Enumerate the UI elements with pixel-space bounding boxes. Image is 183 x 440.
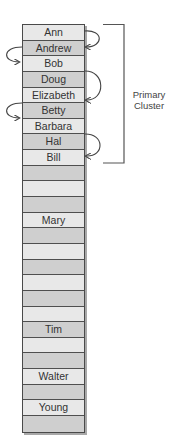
- cluster-bracket: [103, 25, 124, 164]
- table-row-19: Tim: [23, 322, 84, 338]
- table-row-0: Ann: [23, 25, 84, 41]
- table-row-16: [23, 275, 84, 291]
- table-row-22: Walter: [23, 369, 84, 385]
- table-row-10: [23, 181, 84, 197]
- table-row-5: Betty: [23, 103, 84, 119]
- table-row-21: [23, 353, 84, 369]
- table-row-25: [23, 416, 84, 432]
- table-row-23: [23, 385, 84, 401]
- probe-arrow-hal-to-bill: [84, 134, 100, 156]
- table-row-24: Young: [23, 400, 84, 416]
- probe-arrow-doug-to-elizabeth: [84, 71, 101, 100]
- table-row-3: Doug: [23, 72, 84, 88]
- cluster-label-line2: Cluster: [126, 100, 172, 111]
- probe-arrow-andrew-to-bob: [7, 47, 22, 62]
- table-row-13: [23, 228, 84, 244]
- cluster-label: Primary Cluster: [126, 89, 172, 111]
- table-row-12: Mary: [23, 213, 84, 229]
- table-row-20: [23, 338, 84, 354]
- table-row-11: [23, 197, 84, 213]
- table-row-1: Andrew: [23, 41, 84, 57]
- table-row-17: [23, 291, 84, 307]
- hash-table: Ann Andrew Bob Doug Elizabeth Betty Barb…: [22, 24, 85, 433]
- table-row-9: [23, 166, 84, 182]
- table-row-8: Bill: [23, 150, 84, 166]
- table-row-2: Bob: [23, 56, 84, 72]
- table-row-18: [23, 307, 84, 323]
- probe-arrow-ann-to-andrew: [84, 31, 99, 47]
- cluster-label-line1: Primary: [126, 89, 172, 100]
- table-row-14: [23, 244, 84, 260]
- table-row-7: Hal: [23, 134, 84, 150]
- table-row-6: Barbara: [23, 119, 84, 135]
- table-row-4: Elizabeth: [23, 88, 84, 104]
- table-row-15: [23, 260, 84, 276]
- probe-arrow-betty-to-barbara: [7, 103, 22, 118]
